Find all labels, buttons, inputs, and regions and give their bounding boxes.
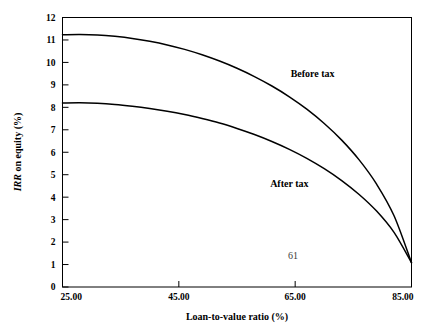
y-tick-label-9: 9 xyxy=(51,80,56,90)
y-tick-label-0: 0 xyxy=(51,282,56,292)
series-label-before-tax: Before tax xyxy=(291,68,335,79)
y-tick-label-8: 8 xyxy=(51,103,56,113)
y-axis-title-rest: on equity (%) xyxy=(12,113,24,174)
chart-canvas: 0123456789101112 25.0045.0065.0085.00 Be… xyxy=(0,0,433,326)
y-tick-label-10: 10 xyxy=(46,58,56,68)
figure-background xyxy=(0,0,433,326)
y-tick-label-7: 7 xyxy=(51,125,56,135)
x-tick-label-25.00: 25.00 xyxy=(61,292,83,302)
chart-figure: 0123456789101112 25.0045.0065.0085.00 Be… xyxy=(0,0,433,326)
series-label-after-tax: After tax xyxy=(270,178,308,189)
y-tick-label-11: 11 xyxy=(47,35,56,45)
x-axis-title: Loan-to-value ratio (%) xyxy=(186,311,288,323)
y-axis-title: IRR on equity (%) xyxy=(12,113,24,193)
y-tick-label-12: 12 xyxy=(46,13,56,23)
y-tick-label-1: 1 xyxy=(51,260,56,270)
x-tick-label-85.00: 85.00 xyxy=(392,292,414,302)
y-tick-label-2: 2 xyxy=(51,237,56,247)
y-tick-label-3: 3 xyxy=(51,215,56,225)
y-tick-label-4: 4 xyxy=(51,193,56,203)
x-tick-label-45.00: 45.00 xyxy=(168,292,190,302)
y-axis-title-emphasis: IRR xyxy=(12,174,23,193)
x-tick-label-65.00: 65.00 xyxy=(284,292,306,302)
y-tick-label-5: 5 xyxy=(51,170,56,180)
y-tick-label-6: 6 xyxy=(51,148,56,158)
page-number: 61 xyxy=(288,250,298,261)
